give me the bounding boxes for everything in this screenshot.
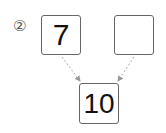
result-number: 10 xyxy=(83,88,114,120)
left-number-box: 7 xyxy=(41,15,81,55)
left-arrow xyxy=(62,57,80,81)
result-number-box: 10 xyxy=(79,83,119,124)
left-number: 7 xyxy=(53,18,70,52)
right-number-box-blank[interactable] xyxy=(114,15,154,55)
right-arrow xyxy=(118,57,134,81)
